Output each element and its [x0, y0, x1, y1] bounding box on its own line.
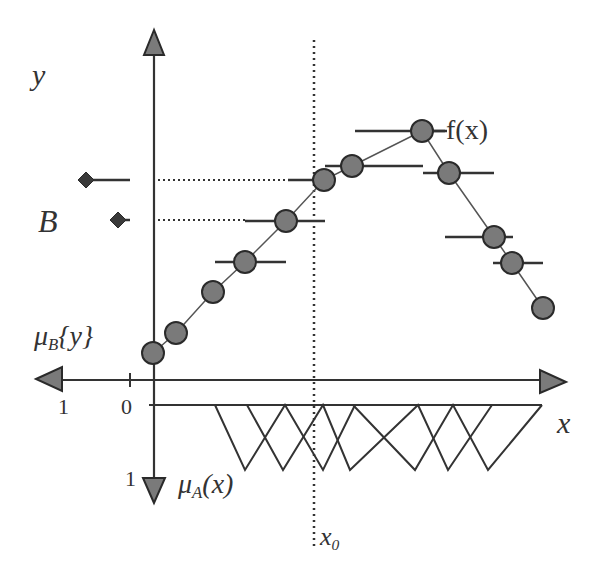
tick-label-left-0: 0 — [121, 396, 132, 418]
sample-point-icon — [313, 169, 335, 191]
tick-label-left-1: 1 — [58, 396, 69, 418]
x-axis-label: x — [557, 408, 570, 438]
output-memberships — [78, 172, 288, 228]
input-membership-label: μA(x) — [178, 470, 233, 502]
sample-point-icon — [234, 251, 256, 273]
function-curve — [142, 120, 554, 364]
sample-point-icon — [438, 162, 460, 184]
x0-subscript: 0 — [332, 536, 340, 553]
membership-triangle-chain — [215, 405, 355, 470]
membership-triangle-chain — [353, 405, 542, 470]
sample-point-icon — [532, 297, 554, 319]
mu-symbol: μ — [178, 468, 192, 499]
input-membership-functions — [215, 405, 542, 470]
fuzzy-approximation-diagram — [0, 0, 604, 573]
mu-b-axis-arrow-left-icon — [36, 367, 62, 391]
y-axis-label: y — [32, 60, 45, 90]
mu-subscript: B — [48, 335, 58, 354]
sample-point-icon — [501, 252, 523, 274]
mu-argument: {y} — [58, 320, 93, 351]
x0-main: x — [320, 522, 332, 551]
sample-point-icon — [483, 226, 505, 248]
mu-subscript: A — [192, 483, 202, 502]
y-axis-arrow-up-icon — [144, 30, 164, 55]
mu-argument: (x) — [202, 468, 233, 499]
fuzzy-set-b-label: B — [38, 205, 58, 237]
mu-a-axis-arrow-down-icon — [143, 478, 165, 503]
diamond-marker-icon — [110, 212, 126, 228]
sample-point-icon — [142, 342, 164, 364]
diamond-marker-icon — [78, 172, 94, 188]
sample-point-icon — [202, 281, 224, 303]
sample-point-icon — [275, 210, 297, 232]
mu-symbol: μ — [34, 320, 48, 351]
sample-point-icon — [411, 120, 433, 142]
function-label-text: f(x) — [446, 114, 488, 145]
sample-point-icon — [341, 155, 363, 177]
output-membership-label: μB{y} — [34, 322, 93, 354]
function-label: f(x) — [446, 116, 488, 144]
tick-label-down-1: 1 — [125, 468, 136, 490]
membership-triangle-chain — [247, 405, 492, 470]
x-axis-arrow-right-icon — [540, 370, 566, 393]
sample-point-icon — [165, 322, 187, 344]
x0-label: x0 — [320, 524, 339, 552]
